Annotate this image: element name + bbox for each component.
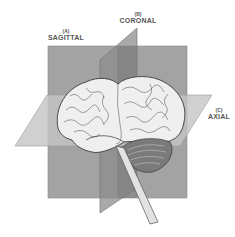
sagittal-name: SAGITTAL — [46, 34, 86, 41]
brain-planes-diagram — [0, 0, 235, 237]
axial-label: (C) AXIAL — [203, 108, 235, 120]
coronal-label: (B) CORONAL — [117, 12, 159, 24]
coronal-name: CORONAL — [117, 17, 159, 24]
sagittal-label: (A) SAGITTAL — [46, 29, 86, 41]
axial-name: AXIAL — [203, 113, 235, 120]
